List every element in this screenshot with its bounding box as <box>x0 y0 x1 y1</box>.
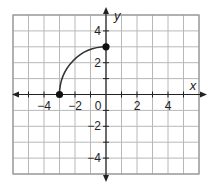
x-tick-label: 2 <box>134 99 141 113</box>
x-tick-label: −4 <box>37 99 51 113</box>
x-tick-label: 4 <box>165 99 172 113</box>
y-tick-label: 4 <box>94 24 101 38</box>
closed-endpoint-dot <box>56 91 63 98</box>
x-tick-label: −2 <box>68 99 82 113</box>
y-tick-label: −4 <box>87 151 101 165</box>
coordinate-graph: −4−202442−2−4xy <box>0 0 212 191</box>
y-tick-label: −2 <box>87 119 101 133</box>
x-tick-label: 0 <box>95 99 102 113</box>
closed-endpoint-dot <box>102 43 109 50</box>
y-axis-arrow-down-icon <box>103 175 109 182</box>
y-axis-arrow-up-icon <box>103 7 109 14</box>
x-axis-arrow-right-icon <box>200 92 207 98</box>
curve <box>60 47 107 95</box>
x-axis-label: x <box>189 78 197 93</box>
y-tick-label: 2 <box>94 56 101 70</box>
